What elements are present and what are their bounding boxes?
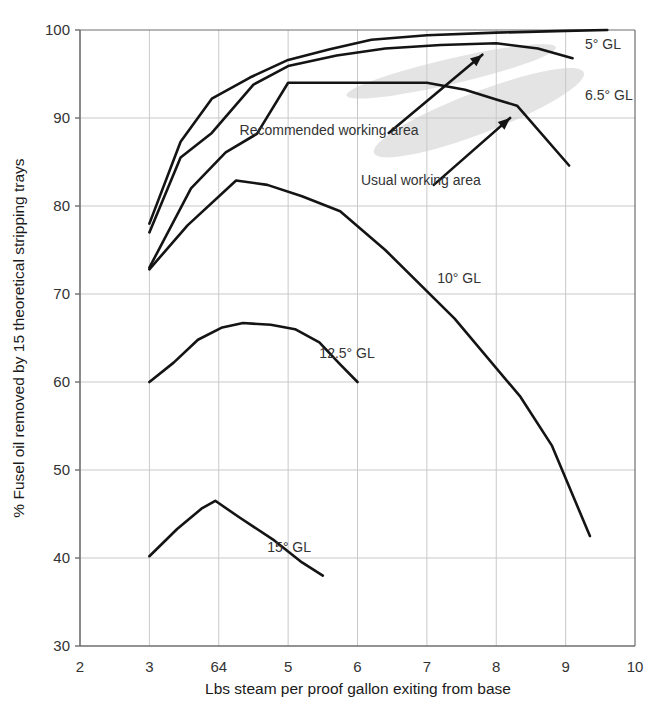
series-label-10-gl: 10° GL bbox=[437, 270, 481, 286]
x-tick-label: 7 bbox=[423, 658, 431, 675]
y-axis-title: % Fusel oil removed by 15 theoretical st… bbox=[10, 158, 27, 517]
x-tick-labels: 23645678910 bbox=[76, 658, 644, 675]
series-label-12-5-gl: 12.5° GL bbox=[319, 345, 375, 361]
x-tick-label: 9 bbox=[561, 658, 569, 675]
series-label-15-gl: 15° GL bbox=[267, 539, 311, 555]
x-tick-label: 6 bbox=[353, 658, 361, 675]
series-label-6-5-gl: 6.5° GL bbox=[585, 87, 633, 103]
x-tick-label: 2 bbox=[76, 658, 84, 675]
shaded-working-area-bands bbox=[344, 35, 592, 173]
x-tick-label: 5 bbox=[284, 658, 292, 675]
y-tick-label: 100 bbox=[45, 21, 70, 38]
y-tick-label: 60 bbox=[53, 373, 70, 390]
x-axis-title: Lbs steam per proof gallon exiting from … bbox=[205, 680, 511, 697]
y-tick-label: 90 bbox=[53, 109, 70, 126]
y-tick-labels: 30405060708090100 bbox=[45, 21, 70, 654]
y-tick-label: 80 bbox=[53, 197, 70, 214]
y-tick-label: 50 bbox=[53, 461, 70, 478]
label-recommended-working-area: Recommended working area bbox=[240, 122, 419, 138]
x-tick-label: 10 bbox=[627, 658, 644, 675]
series-label-5-gl: 5° GL bbox=[585, 36, 621, 52]
fusel-oil-stripping-chart: 23645678910 30405060708090100 5° GL6.5° … bbox=[0, 0, 663, 727]
y-tick-label: 70 bbox=[53, 285, 70, 302]
series-lines bbox=[149, 30, 607, 576]
y-tick-label: 30 bbox=[53, 637, 70, 654]
series-line-15-gl bbox=[149, 501, 322, 576]
x-tick-label: 3 bbox=[145, 658, 153, 675]
y-tick-label: 40 bbox=[53, 549, 70, 566]
label-usual-working-area: Usual working area bbox=[361, 172, 481, 188]
x-tick-label: 8 bbox=[492, 658, 500, 675]
chart-canvas: 23645678910 30405060708090100 5° GL6.5° … bbox=[0, 0, 663, 727]
x-tick-label: 64 bbox=[210, 658, 227, 675]
